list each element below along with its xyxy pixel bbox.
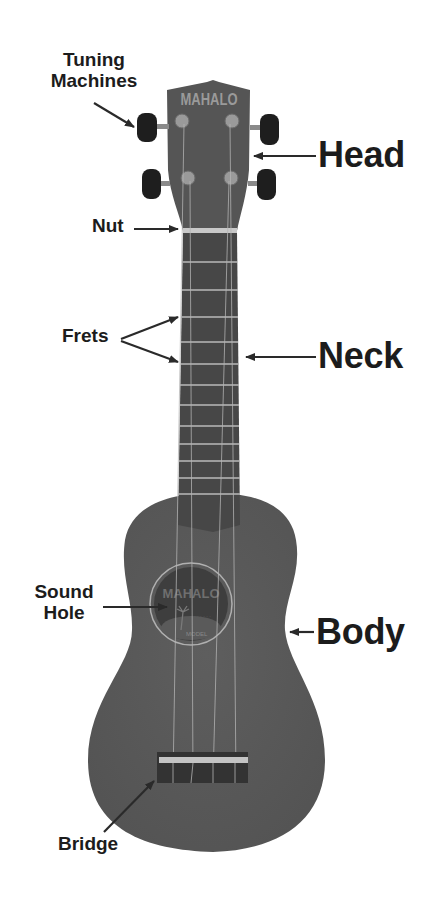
label-sound-hole: Sound Hole <box>24 582 104 623</box>
tuner-button-lower-right <box>257 169 276 200</box>
svg-text:· · · · · ·: · · · · · · <box>194 613 211 619</box>
label-tuning-machines-line1: Tuning <box>38 50 150 71</box>
soundhole-logo: MAHALO <box>162 586 219 601</box>
bridge <box>157 752 248 783</box>
label-sound-hole-line1: Sound <box>24 582 104 603</box>
label-neck: Neck <box>318 337 403 376</box>
label-tuning-machines: Tuning Machines <box>38 50 150 91</box>
label-frets: Frets <box>62 326 108 347</box>
label-sound-hole-line2: Hole <box>24 603 104 624</box>
tuner-button-lower-left <box>142 169 161 199</box>
tuner-button-upper-left <box>137 113 157 142</box>
headstock-logo: MAHALO <box>180 91 237 109</box>
label-bridge: Bridge <box>58 834 118 855</box>
svg-text:MODEL: MODEL <box>186 631 208 637</box>
label-tuning-machines-line2: Machines <box>38 71 150 92</box>
nut <box>183 228 237 233</box>
tuner-button-upper-right <box>260 114 279 145</box>
arrow-frets-upper <box>121 317 178 339</box>
headstock: MAHALO <box>167 80 250 231</box>
label-body: Body <box>316 613 405 652</box>
ukulele-body <box>88 493 325 852</box>
arrow-tuning-machines <box>94 103 134 127</box>
label-nut: Nut <box>92 216 124 237</box>
arrow-frets-lower <box>121 341 178 362</box>
label-head: Head <box>318 136 405 175</box>
sound-hole: MAHALO · · · · · · MODEL <box>150 563 232 645</box>
neck <box>178 231 240 532</box>
